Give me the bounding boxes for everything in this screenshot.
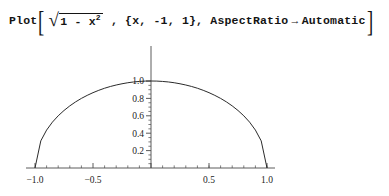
y-tick-label: 0.6 — [132, 111, 144, 121]
separator-two: , — [196, 14, 210, 27]
rule-arrow-icon: → — [288, 14, 301, 26]
semicircle-plot: −1.0−0.50.51.0 0.20.40.60.81.0 — [0, 34, 389, 196]
mathematica-input-cell[interactable]: Plot[√1 - x2 , {x, -1, 1}, AspectRatio→A… — [9, 6, 381, 34]
y-tick-label: 0.2 — [132, 146, 144, 156]
function-name: Plot — [9, 14, 37, 27]
plot-output-graphic[interactable]: −1.0−0.50.51.0 0.20.40.60.81.0 — [0, 34, 389, 196]
radical-icon: √ — [49, 13, 60, 26]
y-tick-label: 1.0 — [132, 76, 144, 86]
x-axis-tick-labels: −1.0−0.50.51.0 — [26, 175, 273, 185]
square-root-expression: √1 - x2 — [49, 14, 103, 29]
separator-one: , — [104, 14, 125, 27]
plot-iterator: {x, -1, 1} — [125, 14, 196, 27]
radicand: 1 - x2 — [59, 13, 103, 28]
x-tick-label: −0.5 — [84, 175, 101, 185]
option-name-aspectratio: AspectRatio — [210, 14, 288, 27]
y-tick-label: 0.8 — [132, 94, 144, 104]
x-tick-label: −1.0 — [26, 175, 43, 185]
option-value-automatic: Automatic — [302, 14, 366, 27]
x-tick-label: 0.5 — [203, 175, 215, 185]
y-tick-label: 0.4 — [132, 129, 144, 139]
x-tick-label: 1.0 — [261, 175, 273, 185]
y-axis-ticks — [146, 81, 151, 164]
y-axis-tick-labels: 0.20.40.60.81.0 — [132, 76, 144, 156]
radicand-exponent: 2 — [96, 13, 101, 22]
radicand-base: 1 - x — [60, 15, 96, 28]
